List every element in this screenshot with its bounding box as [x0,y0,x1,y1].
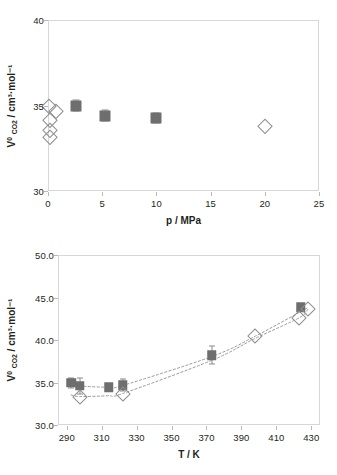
x-tick-mark [319,192,320,196]
y-tick-mark [54,340,58,341]
y-tick-label: 30 [33,186,44,197]
y-tick-label: 35 [33,100,44,111]
x-tick-label: 370 [198,432,214,443]
data-point-open-diamond [257,119,272,134]
chart-panel-pressure: 303540 0510152025 p / MPa V0 CO2 / cm³·m… [0,0,337,237]
x-axis-title-temperature: T / K [178,449,200,460]
plot-area-temperature [58,255,320,425]
x-tick-mark [311,426,312,430]
x-tick-label: 15 [205,198,216,209]
y-tick-mark [44,20,48,21]
x-tick-mark [48,192,49,196]
data-point-filled-square [71,100,82,111]
data-point-filled-square [104,382,114,392]
x-tick-mark [67,426,68,430]
x-tick-mark [241,426,242,430]
x-tick-label: 20 [259,198,270,209]
y-axis-title-temperature: V0 CO2 / cm³·mol⁻¹ [6,299,17,382]
y-tick-mark [54,425,58,426]
x-tick-label: 330 [129,432,145,443]
x-tick-label: 5 [99,198,104,209]
error-bar-cap [209,364,215,365]
error-bar-cap [209,346,215,347]
x-tick-mark [102,192,103,196]
y-tick-label: 40.0 [35,335,54,346]
x-tick-mark [172,426,173,430]
data-markers-pressure [48,20,319,191]
x-tick-label: 0 [45,198,50,209]
x-tick-mark [137,426,138,430]
x-axis-title-pressure: p / MPa [166,215,201,226]
x-tick-mark [156,192,157,196]
y-tick-mark [54,383,58,384]
y-tick-label: 45.0 [35,292,54,303]
data-point-filled-square [100,110,111,121]
chart-panel-temperature: 30.035.040.045.050.0 2903103303503703904… [0,237,337,475]
x-tick-mark [276,426,277,430]
x-tick-label: 410 [268,432,284,443]
x-tick-label: 25 [314,198,325,209]
data-point-open-diamond [248,328,264,344]
y-tick-label: 35.0 [35,377,54,388]
y-tick-mark [54,298,58,299]
x-tick-mark [265,192,266,196]
error-bar-cap [120,378,126,379]
x-tick-label: 10 [151,198,162,209]
y-axis-title-pressure: V0 CO2 / cm³·mol⁻¹ [6,64,17,147]
data-point-filled-square [207,351,217,361]
x-tick-label: 430 [303,432,319,443]
x-tick-label: 310 [94,432,110,443]
figure-root: 303540 0510152025 p / MPa V0 CO2 / cm³·m… [0,0,337,475]
x-tick-mark [102,426,103,430]
error-bar-cap [77,377,83,378]
y-tick-label: 30.0 [35,420,54,431]
x-tick-label: 390 [233,432,249,443]
data-point-open-diamond [72,389,88,405]
y-tick-label: 50.0 [35,250,54,261]
x-tick-mark [211,192,212,196]
y-tick-label: 40 [33,15,44,26]
y-tick-mark [44,106,48,107]
x-tick-label: 290 [59,432,75,443]
plot-area-pressure [48,20,319,191]
y-tick-mark [54,255,58,256]
x-tick-mark [206,426,207,430]
data-markers-temperature [58,255,320,425]
x-tick-label: 350 [163,432,179,443]
data-point-filled-square [151,113,162,124]
